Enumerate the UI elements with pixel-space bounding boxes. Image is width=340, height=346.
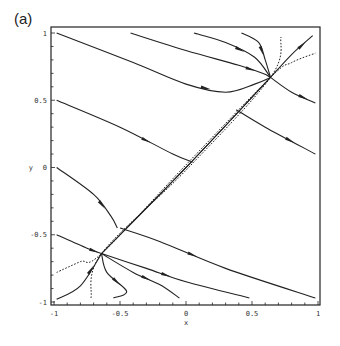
x-tick-label: 0.5 — [246, 310, 259, 318]
direction-arrow-icon — [235, 46, 245, 53]
trajectory-curve — [120, 228, 315, 298]
direction-arrow-icon — [245, 66, 255, 72]
x-tick-label: 1 — [316, 310, 320, 318]
direction-arrow-icon — [141, 137, 151, 144]
trajectory-curve — [102, 254, 250, 298]
x-tick-label: 0 — [184, 310, 188, 318]
phase-portrait-chart: -1-0.500.5110.50-0.5-1xy — [0, 0, 340, 346]
separatrix-curve — [57, 53, 316, 272]
x-tick-label: -1 — [50, 310, 58, 318]
trajectory-curve — [57, 254, 102, 300]
trajectory-curve — [57, 168, 118, 229]
x-tick-label: -0.5 — [112, 310, 129, 318]
trajectory-curve — [57, 100, 193, 162]
direction-arrow-icon — [161, 272, 171, 278]
trajectory-curve — [270, 77, 315, 103]
y-tick-label: -0.5 — [30, 231, 47, 239]
trajectory-curve — [57, 33, 271, 92]
y-axis-title: y — [29, 164, 33, 172]
plot-frame — [51, 27, 320, 305]
trajectories — [57, 33, 316, 299]
direction-arrow-icon — [112, 277, 121, 286]
direction-arrow-icon — [89, 248, 99, 254]
y-tick-label: 0.5 — [34, 97, 47, 105]
x-axis-title: x — [184, 319, 188, 327]
trajectory-curve — [194, 33, 271, 77]
y-tick-label: 0 — [43, 164, 47, 172]
y-tick-label: 1 — [43, 30, 47, 38]
trajectory-curve — [236, 110, 315, 154]
y-tick-label: -1 — [39, 299, 47, 307]
direction-arrow-icon — [141, 275, 151, 282]
